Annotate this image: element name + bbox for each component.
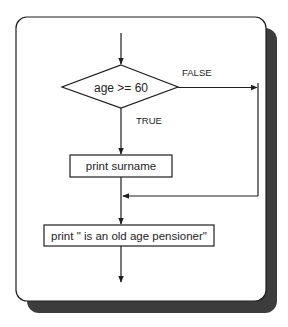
- flowchart-canvas: age >= 60 FALSE TRUE print surname print…: [0, 0, 288, 327]
- process-box-print-surname: print surname: [70, 155, 172, 177]
- process-label: print surname: [86, 160, 156, 172]
- process-box-print-pensioner: print " is an old age pensioner": [44, 225, 214, 246]
- false-label: FALSE: [182, 67, 212, 78]
- true-label: TRUE: [136, 115, 162, 126]
- decision-label: age >= 60: [94, 81, 148, 95]
- process-label: print " is an old age pensioner": [51, 230, 207, 242]
